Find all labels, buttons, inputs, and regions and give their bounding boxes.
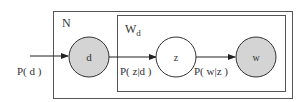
plate-wd-label: Wd — [125, 22, 141, 38]
plate-n-label: N — [62, 16, 71, 30]
edge-d-z-label: P( z|d ) — [120, 65, 152, 78]
node-w-label: w — [252, 52, 260, 63]
plate-diagram: N Wd P( d ) d P( z|d ) z P( w|z ) w — [0, 0, 306, 102]
edge-prior-label: P( d ) — [17, 65, 42, 78]
node-d-label: d — [86, 51, 92, 63]
edge-z-w-label: P( w|z ) — [194, 65, 228, 78]
node-z-label: z — [174, 52, 179, 63]
